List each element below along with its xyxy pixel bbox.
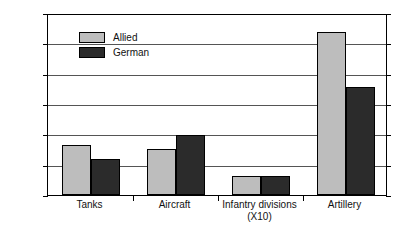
bar-allied-0 <box>62 145 91 195</box>
legend-label-german: German <box>113 48 149 58</box>
bar-german-3 <box>346 87 375 195</box>
legend-item-allied: Allied <box>79 30 149 45</box>
x-axis-labels: TanksAircraftInfantry divisions (X10)Art… <box>47 199 387 233</box>
y-tick-mark <box>386 44 391 45</box>
bar-chart: 02,0004,0006,0008,00010,00012,000 TanksA… <box>0 0 407 235</box>
y-tick-mark <box>386 196 391 197</box>
bar-allied-3 <box>317 32 346 195</box>
y-tick-mark <box>386 166 391 167</box>
y-tick-mark <box>386 105 391 106</box>
bar-german-0 <box>91 159 120 195</box>
bar-german-2 <box>261 176 290 195</box>
legend-label-allied: Allied <box>113 33 137 43</box>
bar-allied-2 <box>232 176 261 195</box>
y-tick-mark <box>43 196 48 197</box>
allied-swatch-icon <box>79 32 105 43</box>
x-category-label: Infantry divisions (X10) <box>222 199 296 222</box>
bar-allied-1 <box>147 149 176 195</box>
german-swatch-icon <box>79 47 105 58</box>
y-tick-mark <box>386 14 391 15</box>
bar-german-1 <box>176 135 205 195</box>
x-category-label: Tanks <box>76 199 102 211</box>
y-tick-mark <box>386 75 391 76</box>
y-tick-mark <box>386 135 391 136</box>
chart-legend: Allied German <box>79 30 149 60</box>
x-category-label: Aircraft <box>159 199 191 211</box>
legend-item-german: German <box>79 45 149 60</box>
x-category-label: Artillery <box>328 199 361 211</box>
